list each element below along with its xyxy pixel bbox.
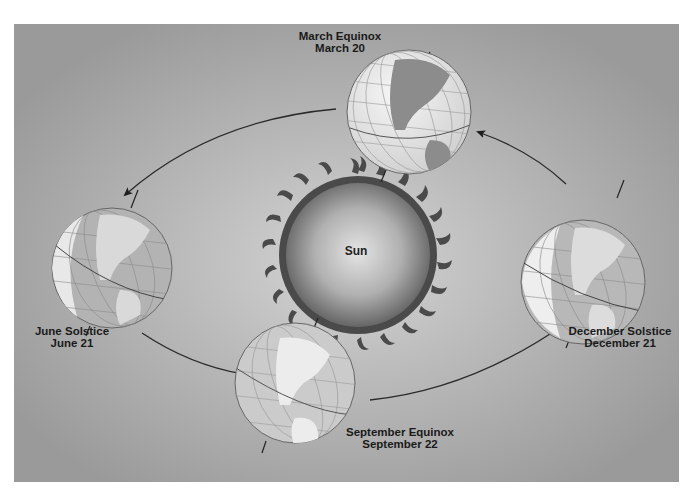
label-march-date: March 20	[290, 42, 390, 54]
label-december-name: December Solstice	[560, 325, 680, 337]
label-september-equinox: September Equinox September 22	[335, 426, 465, 450]
label-september-date: September 22	[335, 438, 465, 450]
label-september-name: September Equinox	[335, 426, 465, 438]
orbit-arrow-june-to-september	[142, 333, 243, 374]
label-june-name: June Solstice	[22, 325, 122, 337]
label-march-equinox: March Equinox March 20	[290, 30, 390, 54]
label-june-solstice: June Solstice June 21	[22, 325, 122, 349]
label-december-solstice: December Solstice December 21	[560, 325, 680, 349]
label-june-date: June 21	[22, 337, 122, 349]
label-december-date: December 21	[560, 337, 680, 349]
label-march-name: March Equinox	[290, 30, 390, 42]
sun-label: Sun	[331, 244, 381, 258]
orbit-arrow-december-to-march	[478, 132, 566, 184]
orbit-arrow-september-to-december	[370, 324, 565, 400]
earth-globe-june	[45, 190, 180, 338]
